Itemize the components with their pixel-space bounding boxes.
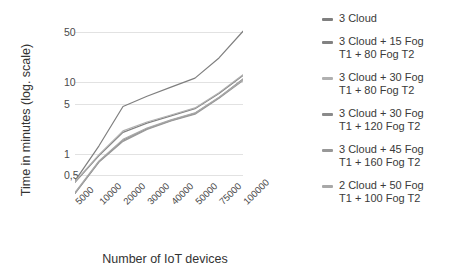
legend-item[interactable]: 2 Cloud + 50 Fog T1 + 100 Fog T2 [322,179,448,206]
legend-swatch-icon [322,77,333,80]
legend-label: 3 Cloud [339,12,377,26]
legend-swatch-icon [322,185,333,188]
y-axis-title: Time in minutes (log. scale) [19,35,39,205]
legend-item[interactable]: 3 Cloud + 30 Fog T1 + 120 Fog T2 [322,107,448,134]
legend-swatch-icon [322,149,333,152]
y-axis-tick-label: 50 [64,26,67,38]
y-axis-tick-label: 0,5 [64,169,67,181]
legend-swatch-icon [322,113,333,116]
plot-area: 5010510,5 [75,22,243,197]
legend-label: 3 Cloud + 45 Fog T1 + 160 Fog T2 [339,143,424,170]
legend-item[interactable]: 3 Cloud + 15 Fog T1 + 80 Fog T2 [322,35,448,62]
legend-swatch-icon [322,41,333,44]
series-line-0 [75,31,243,181]
chart-legend: 3 Cloud3 Cloud + 15 Fog T1 + 80 Fog T23 … [322,12,448,215]
legend-label: 3 Cloud + 30 Fog T1 + 120 Fog T2 [339,107,424,134]
legend-item[interactable]: 3 Cloud + 30 Fog T1 + 80 Fog T2 [322,71,448,98]
x-axis-tick-labels: 5000100002000030000400005000075000100000 [75,199,275,249]
legend-swatch-icon [322,18,333,21]
legend-item[interactable]: 3 Cloud + 45 Fog T1 + 160 Fog T2 [322,143,448,170]
y-axis-tick-label: 5 [64,98,67,110]
series-lines [75,22,243,197]
y-axis-tick-label: 1 [64,148,67,160]
legend-label: 3 Cloud + 15 Fog T1 + 80 Fog T2 [339,35,424,62]
legend-label: 2 Cloud + 50 Fog T1 + 100 Fog T2 [339,179,424,206]
legend-label: 3 Cloud + 30 Fog T1 + 80 Fog T2 [339,71,424,98]
x-axis-tick-label: 100000 [241,177,271,207]
chart-figure: Time in minutes (log. scale) 5010510,5 5… [0,0,449,278]
series-line-3 [75,79,243,194]
series-line-5 [75,79,243,192]
y-axis-tick-label: 10 [64,76,67,88]
x-axis-title: Number of IoT devices [60,252,270,266]
legend-item[interactable]: 3 Cloud [322,12,448,26]
series-line-2 [75,75,243,182]
